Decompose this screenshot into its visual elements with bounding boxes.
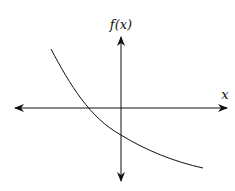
x-axis-label: x bbox=[221, 87, 229, 102]
graph: f(x) x bbox=[0, 0, 235, 191]
y-axis-label: f(x) bbox=[109, 17, 132, 32]
